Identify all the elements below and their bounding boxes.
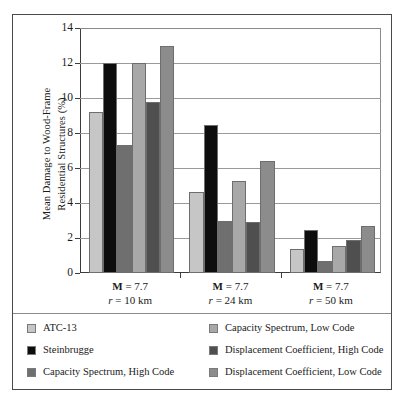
- y-axis-tick: [75, 133, 80, 134]
- bar: [318, 261, 332, 273]
- y-axis-tick: [75, 98, 80, 99]
- x-axis-tick: [281, 273, 282, 278]
- y-axis-tick: [75, 273, 80, 274]
- y-axis-tick-label: 2: [33, 232, 73, 244]
- bar: [103, 63, 117, 273]
- bar: [132, 63, 146, 273]
- y-axis-tick: [75, 168, 80, 169]
- bar: [89, 112, 103, 273]
- y-axis-tick-label: 6: [33, 162, 73, 174]
- bar: [218, 221, 232, 274]
- legend-item: Capacity Spectrum, High Code: [27, 366, 174, 378]
- x-group-distance: r = 50 km: [281, 293, 381, 307]
- legend-item: Displacement Coefficient, High Code: [209, 344, 383, 356]
- gridline: [80, 98, 381, 99]
- legend-label: Capacity Spectrum, High Code: [43, 366, 174, 378]
- y-axis-tick-label: 4: [33, 197, 73, 209]
- gridline: [80, 133, 381, 134]
- y-axis-tick: [75, 238, 80, 239]
- plot-region: Mean Damage to Wood-Frame Residential St…: [13, 15, 393, 313]
- legend-label: ATC-13: [43, 322, 77, 334]
- legend-label: Steinbrugge: [43, 344, 94, 356]
- gridline: [80, 28, 381, 29]
- legend-swatch-icon: [27, 324, 36, 333]
- x-group-magnitude: M = 7.7: [281, 279, 381, 293]
- legend-item: Displacement Coefficient, Low Code: [209, 366, 382, 378]
- x-group-magnitude: M = 7.7: [80, 279, 180, 293]
- y-axis-tick: [75, 28, 80, 29]
- legend-swatch-icon: [209, 324, 218, 333]
- bar: [189, 192, 203, 273]
- legend-swatch-icon: [209, 368, 218, 377]
- x-group-distance: r = 10 km: [80, 293, 180, 307]
- y-axis-tick-label: 0: [33, 267, 73, 279]
- x-group-distance: r = 24 km: [180, 293, 280, 307]
- legend-swatch-icon: [27, 368, 36, 377]
- bar: [146, 102, 160, 274]
- y-axis-tick-label: 12: [33, 57, 73, 69]
- y-axis-title-line-1: Mean Damage to Wood-Frame: [39, 64, 54, 244]
- y-axis-tick-label: 8: [33, 127, 73, 139]
- plot-axes: 02468101214: [80, 28, 381, 273]
- legend-swatch-icon: [27, 346, 36, 355]
- bar: [332, 246, 346, 273]
- y-axis-tick-label: 14: [33, 22, 73, 34]
- legend-swatch-icon: [209, 346, 218, 355]
- bar: [204, 125, 218, 273]
- legend-item: Steinbrugge: [27, 344, 94, 356]
- legend-item: Capacity Spectrum, Low Code: [209, 322, 354, 334]
- x-axis-tick: [180, 273, 181, 278]
- legend-item: ATC-13: [27, 322, 77, 334]
- legend-label: Displacement Coefficient, Low Code: [225, 366, 382, 378]
- legend-label: Displacement Coefficient, High Code: [225, 344, 383, 356]
- y-axis-tick: [75, 63, 80, 64]
- y-axis-tick-label: 10: [33, 92, 73, 104]
- bar: [304, 230, 318, 273]
- bar: [246, 222, 260, 273]
- bar: [361, 226, 375, 273]
- bar: [290, 249, 304, 274]
- bar: [117, 145, 131, 273]
- chart-figure: Mean Damage to Wood-Frame Residential St…: [12, 14, 392, 390]
- chart-legend: ATC-13SteinbruggeCapacity Spectrum, High…: [13, 314, 391, 389]
- y-axis-tick: [75, 203, 80, 204]
- bar: [346, 240, 360, 273]
- bar: [232, 181, 246, 273]
- legend-label: Capacity Spectrum, Low Code: [225, 322, 354, 334]
- x-axis-group-label: M = 7.7r = 50 km: [281, 279, 381, 307]
- x-axis-group-label: M = 7.7r = 24 km: [180, 279, 280, 307]
- gridline: [80, 63, 381, 64]
- bar: [260, 161, 274, 273]
- x-axis-group-label: M = 7.7r = 10 km: [80, 279, 180, 307]
- x-group-magnitude: M = 7.7: [180, 279, 280, 293]
- bar: [160, 46, 174, 274]
